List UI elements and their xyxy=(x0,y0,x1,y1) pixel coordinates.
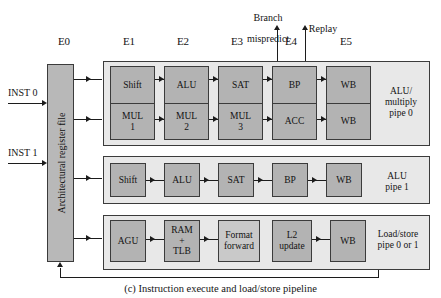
unit-p0-e3: SAT MUL3 xyxy=(218,66,263,140)
regfile-to-pipe0-shift-arrow xyxy=(86,76,91,82)
architectural-register-file-label: Architectural register file xyxy=(55,112,66,213)
stage-label-e0: E0 xyxy=(49,36,79,48)
unit-p0-e2-mul2-line1: MUL xyxy=(176,111,197,121)
unit-ls-e4-l2-update: L2update xyxy=(272,220,312,262)
p1-e3-e4-line xyxy=(254,180,272,181)
unit-p0-e5-wb-top: WB xyxy=(327,67,370,103)
unit-p0-e1-shift: Shift xyxy=(111,67,154,103)
stage-label-e5: E5 xyxy=(331,36,361,48)
inst1-line xyxy=(8,163,44,164)
instruction-pipeline-diagram: Branch mispredict Replay E0 E1 E2 E3 E4 … xyxy=(0,0,441,298)
replay-arrow-head xyxy=(302,25,308,30)
writeback-feedback-arrowhead xyxy=(57,262,63,267)
pipeline-caption-load-store-pipe: Load/store pipe 0 or 1 xyxy=(366,229,430,251)
unit-p0-e4: BP ACC xyxy=(272,66,317,140)
regfile-to-pipe1-arrow xyxy=(86,175,91,181)
pipe0-caption-line2: multiply xyxy=(385,97,417,107)
unit-p0-e4-acc: ACC xyxy=(273,103,316,139)
unit-ls-e4-line2: update xyxy=(279,241,304,251)
inst0-line xyxy=(8,103,44,104)
unit-p0-e3-mul3-line1: MUL xyxy=(230,111,251,121)
p1-e1-e2-arrow xyxy=(150,177,155,183)
unit-p1-e1-shift: Shift xyxy=(110,163,146,197)
inst1-label: INST 1 xyxy=(8,148,38,159)
replay-line1: Replay xyxy=(309,23,337,34)
ls-caption-line1: Load/store xyxy=(378,229,419,239)
ls-e1-e2-line xyxy=(146,239,164,240)
unit-p0-e2: ALU MUL2 xyxy=(164,66,209,140)
unit-ls-e2-line3: TLB xyxy=(173,246,191,256)
stage-label-e4: E4 xyxy=(276,36,306,48)
branch-mispredict-line1: Branch xyxy=(254,12,283,23)
unit-ls-e2-line1: RAM xyxy=(171,225,193,235)
branch-mispredict-arrow-head xyxy=(274,25,280,30)
unit-ls-e3-format-forward: Formatforward xyxy=(218,220,260,262)
ls-e4-e5-arrow xyxy=(316,236,321,242)
pipe1-caption-line1: ALU xyxy=(387,171,407,181)
inst0-label: INST 0 xyxy=(8,88,38,99)
ls-e1-e2-arrow xyxy=(150,236,155,242)
stage-label-e2: E2 xyxy=(168,36,198,48)
unit-p0-e3-mul3-line2: 3 xyxy=(238,122,243,132)
p1-e2-e3-line xyxy=(200,180,218,181)
unit-ls-e3-line1: Format xyxy=(225,230,252,240)
pipe0-caption-line3: pipe 0 xyxy=(389,108,412,118)
writeback-feedback-left-riser xyxy=(60,268,61,278)
p1-e4-e5-arrow xyxy=(312,177,317,183)
unit-p1-e4-bp: BP xyxy=(272,163,308,197)
unit-ls-e3-line2: forward xyxy=(224,241,254,251)
regfile-to-pipe0-mul1-arrow xyxy=(86,116,91,122)
unit-p0-e1-mul1-line2: 1 xyxy=(130,122,135,132)
figure-caption: (c) Instruction execute and load/store p… xyxy=(0,283,441,294)
unit-p0-e4-bp: BP xyxy=(273,67,316,103)
unit-p1-e2-alu: ALU xyxy=(164,163,200,197)
stage-label-e1: E1 xyxy=(114,36,144,48)
unit-ls-e2-line2: + xyxy=(179,236,184,246)
unit-p0-e1: Shift MUL1 xyxy=(110,66,155,140)
p1-e2-e3-arrow xyxy=(204,177,209,183)
unit-p0-e2-mul2: MUL2 xyxy=(165,103,208,139)
ls-e2-e3-arrow xyxy=(204,236,209,242)
unit-p0-e1-mul1: MUL1 xyxy=(111,103,154,139)
unit-p0-e2-mul2-line2: 2 xyxy=(184,122,189,132)
pipe0-caption-line1: ALU/ xyxy=(390,86,412,96)
regfile-to-loadstore-arrow xyxy=(86,235,91,241)
ls-caption-line2: pipe 0 or 1 xyxy=(378,240,419,250)
pipeline-caption-alu-pipe-1: ALU pipe 1 xyxy=(368,171,426,193)
architectural-register-file: Architectural register file xyxy=(47,64,74,262)
unit-p0-e3-sat: SAT xyxy=(219,67,262,103)
p1-e3-e4-arrow xyxy=(258,177,263,183)
unit-p1-e3-sat: SAT xyxy=(218,163,254,197)
ls-e4-e5-line xyxy=(312,239,330,240)
pipe1-caption-line2: pipe 1 xyxy=(385,182,408,192)
unit-p0-e1-mul1-line1: MUL xyxy=(122,111,143,121)
stage-label-e3: E3 xyxy=(222,36,252,48)
writeback-feedback-horizontal xyxy=(60,277,378,278)
unit-p0-e5: WB WB xyxy=(326,66,371,140)
p1-e4-e5-line xyxy=(308,180,326,181)
unit-p0-e2-alu: ALU xyxy=(165,67,208,103)
unit-ls-e4-line1: L2 xyxy=(287,230,298,240)
ls-e2-e3-line xyxy=(200,239,218,240)
unit-ls-e2-ram-tlb: RAM+TLB xyxy=(164,220,200,262)
p1-e1-e2-line xyxy=(146,180,164,181)
unit-p0-e3-mul3: MUL3 xyxy=(219,103,262,139)
unit-p0-e5-wb-bottom: WB xyxy=(327,103,370,139)
unit-ls-e1-agu: AGU xyxy=(110,220,146,262)
pipeline-caption-alu-multiply-pipe-0: ALU/ multiply pipe 0 xyxy=(374,86,428,120)
unit-p1-e5-wb: WB xyxy=(326,163,362,197)
unit-ls-e5-wb: WB xyxy=(330,220,366,262)
